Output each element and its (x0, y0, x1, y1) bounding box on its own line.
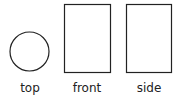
top-view-label: top (5, 81, 55, 95)
top-view-circle (10, 32, 49, 71)
front-view-rectangle (65, 5, 111, 73)
side-view-label: side (124, 81, 174, 95)
front-view-label: front (62, 81, 112, 95)
side-view-rectangle (127, 5, 172, 73)
